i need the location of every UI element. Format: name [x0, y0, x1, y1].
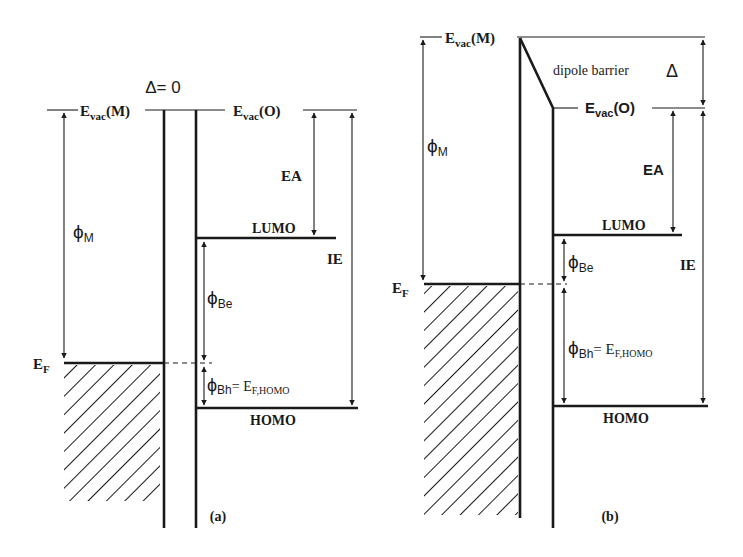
dipole-barrier-label: dipole barrier	[553, 63, 629, 78]
phi-be-label: ϕBe	[568, 251, 594, 275]
delta-symbol: Δ	[666, 61, 678, 81]
phi-be-label: ϕBe	[207, 287, 233, 311]
panel-a: Δ= 0 Evac(M) Evac(O) EA IE LUMO HOMO ϕM …	[33, 78, 358, 528]
metal-filled-states-hatch	[64, 365, 162, 503]
evac-organic-label: Evac(O)	[233, 103, 281, 122]
phi-m-label: ϕM	[427, 135, 448, 159]
energy-level-diagram: Δ= 0 Evac(M) Evac(O) EA IE LUMO HOMO ϕM …	[0, 0, 743, 557]
ie-label: IE	[680, 257, 696, 273]
homo-label: HOMO	[250, 413, 296, 428]
ie-label: IE	[327, 251, 343, 267]
homo-label: HOMO	[603, 411, 649, 426]
panel-b-caption: (b)	[601, 509, 618, 525]
lumo-label: LUMO	[602, 218, 646, 233]
panel-b: Evac(M) dipole barrier Δ Evac(O) EA IE L…	[392, 30, 708, 528]
phi-bh-label: ϕBh= EF,HOMO	[207, 375, 290, 397]
ea-label: EA	[643, 161, 664, 178]
delta-zero-label: Δ= 0	[145, 78, 180, 97]
phi-bh-label: ϕBh= EF,HOMO	[568, 337, 653, 361]
phi-m-label: ϕM	[73, 221, 94, 245]
ef-label: EF	[33, 356, 50, 375]
panel-a-caption: (a)	[210, 509, 227, 525]
metal-filled-states-hatch	[424, 286, 518, 515]
ea-label: EA	[281, 168, 302, 184]
evac-metal-label: Evac(M)	[80, 103, 130, 122]
lumo-label: LUMO	[252, 221, 296, 236]
evac-organic-label: Evac(O)	[585, 99, 635, 119]
organic-interface-wall-with-dipole	[520, 38, 553, 528]
ef-label: EF	[392, 280, 409, 299]
evac-metal-label: Evac(M)	[445, 30, 495, 49]
